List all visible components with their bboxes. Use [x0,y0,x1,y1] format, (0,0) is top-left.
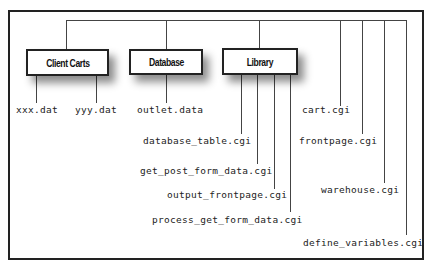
connector-xxx-dat [36,76,37,103]
client-carts-label: Client Carts [46,57,89,69]
file-label-yyy-dat: yyy.dat [75,104,117,115]
connector-client-carts [66,20,67,49]
library-label: Library [247,56,273,68]
connector-database [166,20,167,49]
file-label-outlet-data: outlet.data [137,104,203,115]
connector-database-table-cgi [241,75,242,134]
connector-get-post-form-data-cgi [257,75,258,164]
file-label-get-post-form-data-cgi: get_post_form_data.cgi [140,165,272,176]
connector-yyy-dat [96,76,97,103]
connector-define-variables-cgi [406,20,407,235]
file-label-database-table-cgi: database_table.cgi [143,135,251,146]
connector-cart-cgi [340,20,341,106]
connector-outlet-data [166,75,167,103]
file-label-cart-cgi: cart.cgi [302,104,350,115]
library-box: Library [222,48,298,75]
file-label-process-get-form-data-cgi: process_get_form_data.cgi [152,214,303,225]
connector-frontpage-cgi [362,20,363,134]
connector-warehouse-cgi [384,20,385,183]
connector-output-frontpage-cgi [274,75,275,189]
top-connector-line [66,20,407,21]
connector-process-get-form-data-cgi [290,75,291,212]
file-label-define-variables-cgi: define_variables.cgi [303,237,423,248]
file-label-output-frontpage-cgi: output_frontpage.cgi [167,189,287,200]
connector-library [259,20,260,48]
file-label-warehouse-cgi: warehouse.cgi [321,184,399,195]
client-carts-box: Client Carts [26,49,109,76]
database-box: Database [129,49,203,75]
file-label-frontpage-cgi: frontpage.cgi [299,135,377,146]
database-label: Database [148,56,183,68]
file-label-xxx-dat: xxx.dat [16,104,58,115]
